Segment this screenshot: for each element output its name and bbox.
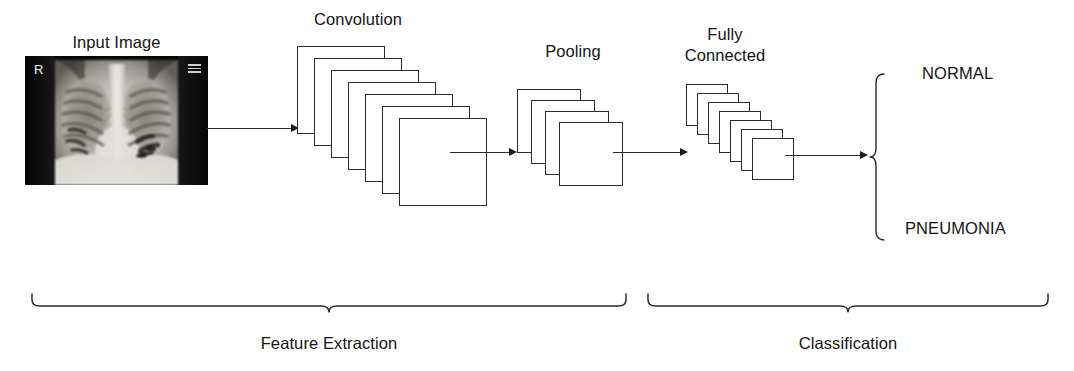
classification-label: Classification: [648, 334, 1048, 353]
arrow-convolution-to-pooling: [450, 147, 517, 158]
pooling-stack: [517, 89, 627, 189]
classification-brace: [646, 292, 1050, 314]
fully-connected-label-line2: Connected: [685, 46, 766, 64]
xray-graphic: [25, 56, 208, 185]
fully-connected-label-line1: Fully: [707, 25, 742, 43]
output-pneumonia-label: PNEUMONIA: [905, 219, 1006, 238]
feature-extraction-label: Feature Extraction: [129, 334, 529, 353]
xray-side-marker: R: [34, 62, 43, 77]
cnn-architecture-diagram: Input Image: [0, 0, 1074, 371]
input-image-label: Input Image: [25, 33, 208, 52]
output-normal-label: NORMAL: [922, 64, 993, 83]
arrow-fully-connected-to-output: [785, 150, 868, 161]
convolution-stack: [297, 46, 487, 216]
input-xray-image: R: [25, 56, 208, 185]
output-brace: [868, 72, 888, 242]
xray-corner-tags: [188, 64, 201, 75]
convolution-label: Convolution: [268, 10, 448, 29]
arrow-input-to-convolution: [207, 123, 299, 134]
convolution-card: [399, 118, 487, 206]
arrow-pooling-to-fully-connected: [613, 147, 688, 158]
feature-extraction-brace: [30, 292, 628, 314]
fully-connected-label: Fully Connected: [655, 24, 795, 66]
fully-connected-stack: [686, 84, 796, 184]
pooling-label: Pooling: [508, 42, 638, 61]
